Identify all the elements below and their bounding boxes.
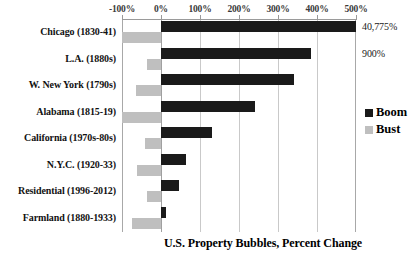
legend-item-boom[interactable]: Boom: [365, 104, 407, 121]
x-axis-title: U.S. Property Bubbles, Percent Change: [116, 236, 410, 251]
x-tick-label: 100%: [189, 4, 212, 14]
bar-bust: [145, 138, 161, 149]
category-label: Chicago (1830-41): [40, 26, 116, 37]
category-label: L.A. (1880s): [65, 53, 116, 64]
bar-boom: [161, 207, 166, 218]
x-tick-label: -100%: [109, 4, 135, 14]
legend-label: Boom: [376, 106, 407, 119]
x-tick-label: 0%: [154, 4, 168, 14]
bar-boom: [161, 21, 356, 32]
chart-row: [122, 126, 356, 153]
category-label: California (1970s-80s): [24, 132, 116, 143]
category-label: Residential (1996-2012): [18, 185, 116, 196]
chart-legend: BoomBust: [365, 104, 407, 138]
bar-bust: [137, 165, 161, 176]
bar-boom: [161, 101, 255, 112]
bar-bust: [136, 85, 161, 96]
legend-label: Bust: [376, 123, 400, 136]
bar-boom: [161, 127, 212, 138]
data-label: 900%: [362, 48, 385, 59]
legend-swatch-icon: [365, 126, 373, 134]
bar-bust: [122, 32, 161, 43]
chart-row: [122, 73, 356, 100]
x-tick-label: 200%: [228, 4, 251, 14]
category-label: W. New York (1790s): [29, 79, 116, 90]
chart-row: [122, 20, 356, 47]
x-tick-label: 400%: [306, 4, 329, 14]
bar-bust: [147, 191, 161, 202]
bar-boom: [161, 74, 294, 85]
chart-row: [122, 100, 356, 127]
chart-row: [122, 47, 356, 74]
plot-area: [122, 20, 356, 232]
data-label: 40,775%: [362, 21, 397, 32]
category-label: Alabama (1815-19): [36, 106, 116, 117]
x-axis-tick-strip: -100%0%100%200%300%400%500%: [0, 0, 410, 20]
x-tick-label: 500%: [345, 4, 368, 14]
bar-boom: [161, 48, 311, 59]
bar-bust: [147, 59, 161, 70]
chart-row: [122, 153, 356, 180]
bar-bust: [132, 218, 161, 229]
legend-item-bust[interactable]: Bust: [365, 121, 407, 138]
property-bubbles-chart: -100%0%100%200%300%400%500% Chicago (183…: [0, 0, 410, 259]
x-tick-mark: [356, 15, 357, 20]
category-label: N.Y.C. (1920-33): [47, 159, 116, 170]
chart-row: [122, 179, 356, 206]
legend-swatch-icon: [365, 109, 373, 117]
bar-bust: [122, 112, 161, 123]
bar-boom: [161, 180, 179, 191]
x-tick-label: 300%: [267, 4, 290, 14]
chart-row: [122, 206, 356, 233]
bar-boom: [161, 154, 186, 165]
category-label: Farmland (1880-1933): [23, 212, 116, 223]
